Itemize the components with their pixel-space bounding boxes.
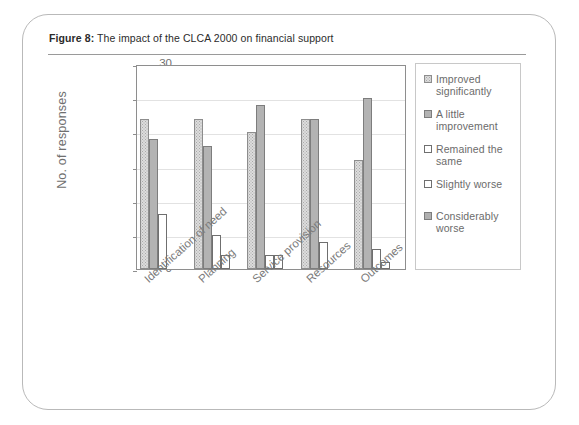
- legend-item: A little improvement: [424, 108, 514, 132]
- legend-swatch-icon: [424, 212, 432, 220]
- legend-item-label: Remained the same: [436, 143, 514, 167]
- y-axis-label: No. of responses: [55, 70, 69, 210]
- bar-group: [351, 66, 405, 269]
- legend-swatch-icon: [424, 75, 432, 83]
- bar: [354, 160, 363, 269]
- y-axis-tick-mark: [133, 271, 137, 272]
- legend-swatch-icon: [424, 110, 432, 118]
- bar-chart: No. of responses 051015202530 Identifica…: [23, 15, 557, 411]
- bar: [247, 132, 256, 269]
- bar: [203, 146, 212, 269]
- bar: [363, 98, 372, 269]
- bar: [301, 119, 310, 269]
- legend-item-label: Improved significantly: [436, 73, 514, 97]
- bar: [149, 139, 158, 269]
- bar: [310, 119, 319, 269]
- legend-item: Improved significantly: [424, 73, 514, 97]
- bar: [194, 119, 203, 269]
- bar: [140, 119, 149, 269]
- bar-groups: [137, 66, 405, 269]
- legend-item-label: A little improvement: [436, 108, 514, 132]
- legend-item: Considerably worse: [424, 210, 514, 234]
- plot-area: [136, 65, 406, 270]
- chart-legend: Improved significantlyA little improveme…: [415, 63, 521, 270]
- legend-item-label: Considerably worse: [436, 210, 514, 234]
- legend-item: Remained the same: [424, 143, 514, 167]
- legend-swatch-icon: [424, 145, 432, 153]
- legend-swatch-icon: [424, 180, 432, 188]
- bar: [256, 105, 265, 269]
- legend-item: Slightly worse: [424, 178, 514, 190]
- figure-card: Figure 8: The impact of the CLCA 2000 on…: [22, 14, 556, 410]
- legend-item-label: Slightly worse: [436, 178, 502, 190]
